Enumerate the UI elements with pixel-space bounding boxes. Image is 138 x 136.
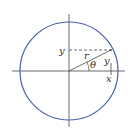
label-x: x bbox=[106, 73, 112, 84]
polar-coordinate-diagram: y r θ y x bbox=[0, 0, 138, 136]
diagram-canvas: y r θ y x bbox=[0, 0, 138, 136]
point-marker bbox=[110, 49, 112, 51]
angle-arc bbox=[87, 62, 89, 71]
label-theta: θ bbox=[90, 59, 96, 70]
label-y-leg: y bbox=[103, 55, 110, 66]
label-y-axis: y bbox=[58, 45, 65, 56]
